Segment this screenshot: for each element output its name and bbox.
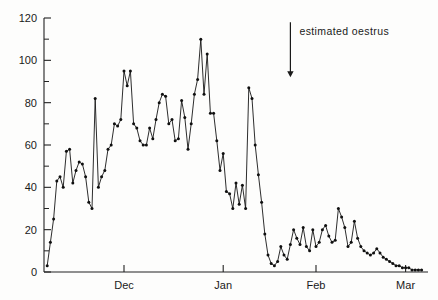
x-tick-label: Dec <box>114 279 134 291</box>
data-point <box>148 127 151 130</box>
data-point <box>84 175 87 178</box>
data-point <box>302 226 305 229</box>
x-tick-label: Jan <box>214 279 232 291</box>
data-point <box>257 173 260 176</box>
data-point <box>420 268 423 271</box>
data-point <box>110 144 113 147</box>
data-point <box>187 148 190 151</box>
data-point <box>231 207 234 210</box>
data-point <box>219 169 222 172</box>
data-point <box>206 52 209 55</box>
data-point <box>158 101 161 104</box>
data-point <box>161 93 164 96</box>
data-point <box>145 144 148 147</box>
data-point <box>331 241 334 244</box>
data-point <box>276 260 279 263</box>
data-point <box>347 245 350 248</box>
data-point <box>174 139 177 142</box>
data-point <box>151 137 154 140</box>
data-point <box>366 251 369 254</box>
data-point <box>263 232 266 235</box>
data-point <box>139 139 142 142</box>
data-point <box>209 112 212 115</box>
data-point <box>375 247 378 250</box>
data-point <box>372 251 375 254</box>
y-tick-label: 120 <box>19 12 37 24</box>
data-point <box>94 97 97 100</box>
data-point <box>356 237 359 240</box>
data-point <box>59 175 62 178</box>
data-point <box>404 266 407 269</box>
data-point <box>126 84 129 87</box>
data-point <box>385 258 388 261</box>
data-point <box>343 226 346 229</box>
data-point <box>100 175 103 178</box>
data-point <box>107 148 110 151</box>
y-tick-label: 40 <box>25 181 37 193</box>
data-point <box>171 118 174 121</box>
data-point <box>119 118 122 121</box>
data-point <box>167 122 170 125</box>
oestrus-annotation: estimated oestrus <box>287 22 389 77</box>
data-point <box>129 69 132 72</box>
data-point <box>103 169 106 172</box>
data-point <box>391 262 394 265</box>
data-point <box>212 112 215 115</box>
y-tick-label: 100 <box>19 54 37 66</box>
data-point <box>247 86 250 89</box>
data-point <box>251 97 254 100</box>
data-point <box>135 127 138 130</box>
annotation-arrow-head <box>287 71 293 77</box>
data-point <box>215 139 218 142</box>
data-point <box>401 266 404 269</box>
data-point <box>183 116 186 119</box>
data-point <box>177 137 180 140</box>
data-point <box>379 251 382 254</box>
data-point <box>244 207 247 210</box>
data-point <box>305 245 308 248</box>
data-point <box>299 243 302 246</box>
data-point <box>71 182 74 185</box>
data-series <box>46 38 423 272</box>
data-point <box>260 201 263 204</box>
data-point <box>116 124 119 127</box>
data-point <box>235 182 238 185</box>
data-point <box>369 254 372 257</box>
data-point <box>382 256 385 259</box>
data-point <box>91 207 94 210</box>
data-point <box>241 184 244 187</box>
data-point <box>353 220 356 223</box>
data-point <box>273 264 276 267</box>
data-point <box>123 69 126 72</box>
data-point <box>97 186 100 189</box>
data-point <box>75 169 78 172</box>
data-point <box>55 179 58 182</box>
data-point <box>62 186 65 189</box>
y-tick-label: 0 <box>31 266 37 278</box>
data-point <box>363 249 366 252</box>
y-tick-label: 80 <box>25 97 37 109</box>
data-point <box>65 150 68 153</box>
data-point <box>318 241 321 244</box>
x-axis: DecJanFebMar <box>44 265 428 291</box>
data-point <box>222 152 225 155</box>
data-point <box>337 207 340 210</box>
data-point <box>327 235 330 238</box>
chart-plot-area: 020406080100120 DecJanFebMar estimated o… <box>0 0 438 300</box>
data-point <box>295 237 298 240</box>
x-tick-label: Mar <box>396 279 415 291</box>
data-point <box>289 243 292 246</box>
data-point <box>414 268 417 271</box>
data-point <box>142 144 145 147</box>
annotation-label: estimated oestrus <box>299 25 389 37</box>
data-point <box>113 122 116 125</box>
data-point <box>78 160 81 163</box>
data-point <box>225 190 228 193</box>
data-point <box>199 38 202 41</box>
data-point <box>49 241 52 244</box>
data-point <box>81 163 84 166</box>
data-point <box>324 224 327 227</box>
chart-figure: 020406080100120 DecJanFebMar estimated o… <box>0 0 438 300</box>
data-point <box>283 254 286 257</box>
data-point <box>87 201 90 204</box>
